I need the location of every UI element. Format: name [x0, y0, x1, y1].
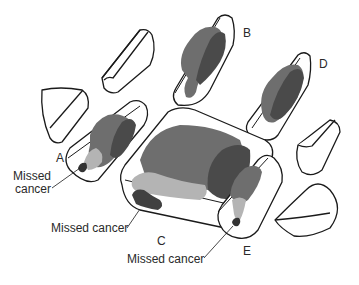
- label-c: C: [157, 235, 166, 248]
- annotation-missed-cancer-e: Missed cancer: [127, 253, 204, 266]
- block-d: [246, 53, 310, 140]
- empty-slice-right-small: [297, 120, 340, 175]
- annotation-a-line2: cancer: [15, 183, 51, 196]
- empty-slice-right-bottom: [275, 184, 338, 236]
- block-b: [173, 15, 234, 105]
- leader-line-e: [204, 226, 233, 258]
- specimen-diagram: A B C D E Missed cancer Missed cancer Mi…: [0, 0, 359, 285]
- annotation-missed-cancer-a: Missed cancer: [13, 170, 51, 196]
- empty-slice-top: [102, 30, 154, 93]
- label-e: E: [243, 245, 251, 258]
- annotation-missed-cancer-c: Missed cancer: [51, 222, 128, 235]
- label-b: B: [243, 27, 251, 40]
- leader-line-a: [52, 168, 80, 188]
- label-d: D: [319, 58, 328, 71]
- leader-line-c: [127, 209, 140, 228]
- empty-slice-left: [42, 88, 89, 143]
- label-a: A: [56, 152, 64, 165]
- diagram-canvas: [0, 0, 359, 285]
